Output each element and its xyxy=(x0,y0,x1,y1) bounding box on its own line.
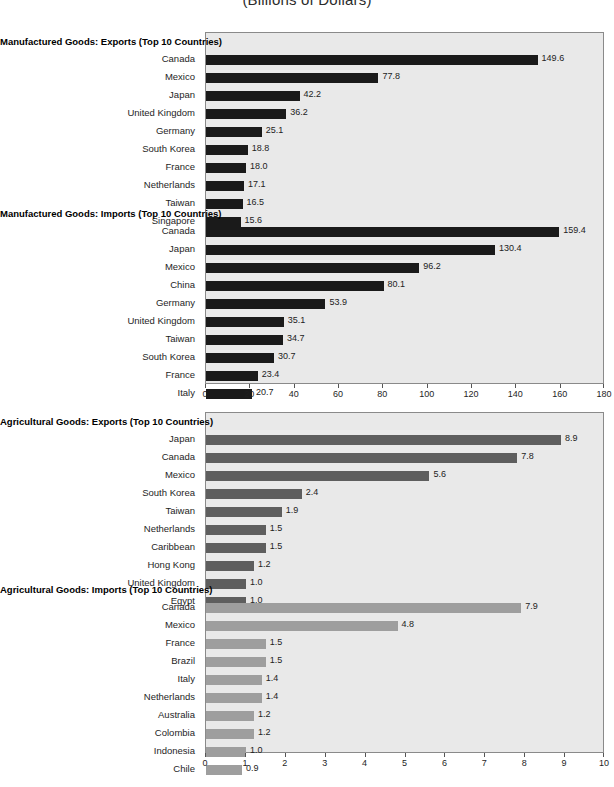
category-label-taiwan: Taiwan xyxy=(0,333,200,344)
category-label-italy: Italy xyxy=(0,673,200,684)
bar-france xyxy=(206,163,246,173)
category-label-colombia: Colombia xyxy=(0,727,200,738)
x-tick-label: 120 xyxy=(463,389,478,399)
bar-value-label: 159.4 xyxy=(563,225,586,235)
x-tick-label: 80 xyxy=(377,389,387,399)
table-row: 96.2 xyxy=(206,259,603,277)
bar-italy xyxy=(206,675,262,685)
x-tick xyxy=(338,384,339,388)
panel-manufactured-goods: 149.677.842.236.225.118.818.017.116.515.… xyxy=(205,32,604,384)
x-tick-label: 9 xyxy=(562,758,567,768)
category-label-netherlands: Netherlands xyxy=(0,691,200,702)
category-label-taiwan: Taiwan xyxy=(0,505,200,516)
table-row: 17.1 xyxy=(206,177,603,195)
bar-germany xyxy=(206,127,262,137)
x-tick-label: 1 xyxy=(242,758,247,768)
bar-value-label: 42.2 xyxy=(304,89,322,99)
x-tick xyxy=(603,753,604,757)
x-tick-label: 0 xyxy=(202,758,207,768)
category-label-netherlands: Netherlands xyxy=(0,179,200,190)
bar-value-label: 1.5 xyxy=(270,541,283,551)
bar-netherlands xyxy=(206,181,244,191)
category-label-taiwan: Taiwan xyxy=(0,197,200,208)
bar-china xyxy=(206,281,384,291)
table-row: 1.2 xyxy=(206,707,603,725)
bar-france xyxy=(206,639,266,649)
x-tick-label: 20 xyxy=(244,389,254,399)
x-tick xyxy=(205,384,206,388)
bar-value-label: 35.1 xyxy=(288,315,306,325)
x-tick xyxy=(382,384,383,388)
page-title: (Billions of Dollars) xyxy=(0,0,614,8)
bar-value-label: 1.4 xyxy=(266,691,279,701)
x-tick xyxy=(325,753,326,757)
x-tick-label: 140 xyxy=(508,389,523,399)
x-tick xyxy=(484,753,485,757)
bar-canada xyxy=(206,603,521,613)
table-row: 1.5 xyxy=(206,539,603,557)
table-row: 18.8 xyxy=(206,141,603,159)
category-label-germany: Germany xyxy=(0,297,200,308)
bar-value-label: 1.2 xyxy=(258,559,271,569)
category-label-canada: Canada xyxy=(0,601,200,612)
bar-south-korea xyxy=(206,353,274,363)
table-row: 18.0 xyxy=(206,159,603,177)
table-row: 53.9 xyxy=(206,295,603,313)
x-tick xyxy=(603,384,604,388)
bar-value-label: 18.0 xyxy=(250,161,268,171)
category-label-france: France xyxy=(0,161,200,172)
bar-south-korea xyxy=(206,145,248,155)
category-label-indonesia: Indonesia xyxy=(0,745,200,756)
category-label-china: China xyxy=(0,279,200,290)
bar-mexico xyxy=(206,73,378,83)
bar-value-label: 1.0 xyxy=(250,577,263,587)
category-label-france: France xyxy=(0,637,200,648)
bar-value-label: 25.1 xyxy=(266,125,284,135)
x-tick-label: 3 xyxy=(322,758,327,768)
x-tick xyxy=(560,384,561,388)
table-row: 1.0 xyxy=(206,575,603,593)
bar-value-label: 17.1 xyxy=(248,179,266,189)
x-tick xyxy=(427,384,428,388)
bar-canada xyxy=(206,227,559,237)
bar-value-label: 1.5 xyxy=(270,655,283,665)
bar-value-label: 1.9 xyxy=(286,505,299,515)
bar-value-label: 77.8 xyxy=(382,71,400,81)
bar-canada xyxy=(206,453,517,463)
bar-value-label: 18.8 xyxy=(252,143,270,153)
table-row: 1.2 xyxy=(206,557,603,575)
table-row: 1.9 xyxy=(206,503,603,521)
bar-netherlands xyxy=(206,525,266,535)
bar-value-label: 53.9 xyxy=(329,297,347,307)
x-tick-label: 6 xyxy=(442,758,447,768)
x-tick-label: 160 xyxy=(552,389,567,399)
category-label-united-kingdom: United Kingdom xyxy=(0,315,200,326)
bar-value-label: 5.6 xyxy=(433,469,446,479)
category-label-chile: Chile xyxy=(0,763,200,774)
table-row: 34.7 xyxy=(206,331,603,349)
category-label-hong-kong: Hong Kong xyxy=(0,559,200,570)
bar-value-label: 80.1 xyxy=(388,279,406,289)
x-tick xyxy=(444,753,445,757)
x-tick xyxy=(285,753,286,757)
section-title-agricultural-imports: Agricultural Goods: Imports (Top 10 Coun… xyxy=(0,584,200,595)
bar-mexico xyxy=(206,471,429,481)
x-tick-label: 2 xyxy=(282,758,287,768)
table-row: 1.4 xyxy=(206,689,603,707)
table-row: 8.9 xyxy=(206,431,603,449)
x-tick-label: 8 xyxy=(522,758,527,768)
x-tick-label: 180 xyxy=(596,389,611,399)
x-tick xyxy=(471,384,472,388)
category-label-caribbean: Caribbean xyxy=(0,541,200,552)
table-row: 25.1 xyxy=(206,123,603,141)
table-row: 1.5 xyxy=(206,635,603,653)
table-row: 7.9 xyxy=(206,599,603,617)
table-row: 7.8 xyxy=(206,449,603,467)
bar-value-label: 7.8 xyxy=(521,451,534,461)
category-label-germany: Germany xyxy=(0,125,200,136)
bar-value-label: 23.4 xyxy=(262,369,280,379)
bar-hong-kong xyxy=(206,561,254,571)
bar-value-label: 7.9 xyxy=(525,601,538,611)
bar-germany xyxy=(206,299,325,309)
table-row: 2.4 xyxy=(206,485,603,503)
